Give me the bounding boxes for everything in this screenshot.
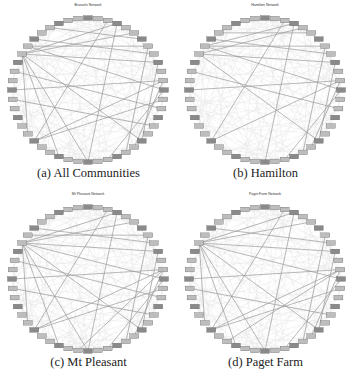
- node: [200, 321, 209, 326]
- node: [93, 159, 102, 164]
- node: [290, 154, 299, 159]
- node: [261, 16, 270, 21]
- node: [8, 78, 17, 83]
- caption-d: (d) Paget Farm: [177, 355, 354, 370]
- node: [214, 220, 223, 225]
- node: [103, 18, 112, 23]
- node: [251, 205, 260, 210]
- node: [154, 60, 163, 65]
- node: [84, 160, 93, 165]
- node: [130, 31, 139, 36]
- node: [241, 18, 250, 23]
- node: [13, 115, 22, 120]
- node: [137, 37, 146, 42]
- node: [336, 267, 345, 272]
- node: [84, 205, 93, 210]
- node: [261, 349, 270, 354]
- node: [223, 339, 232, 344]
- node: [223, 25, 232, 30]
- node: [8, 286, 17, 291]
- node: [30, 328, 39, 333]
- node: [46, 339, 55, 344]
- node: [290, 343, 299, 348]
- diagram-title: Paget Farm Network: [249, 192, 281, 196]
- panel-c: Mt Pleasant Network (c) Mt Pleasant: [0, 189, 177, 378]
- node: [331, 60, 340, 65]
- node: [157, 69, 166, 74]
- node: [231, 343, 240, 348]
- node: [144, 321, 153, 326]
- node: [334, 69, 343, 74]
- chord-diagram-b: Hamilton Network: [177, 0, 354, 165]
- node: [326, 241, 335, 246]
- node: [46, 25, 55, 30]
- node: [195, 241, 204, 246]
- node: [331, 249, 340, 254]
- node: [93, 348, 102, 353]
- node: [299, 150, 308, 155]
- diagram-title: Hamilton Network: [251, 3, 279, 7]
- node: [74, 16, 83, 21]
- node: [251, 159, 260, 164]
- node: [231, 154, 240, 159]
- node: [280, 346, 289, 351]
- node: [159, 78, 168, 83]
- node: [326, 124, 335, 129]
- node: [149, 241, 158, 246]
- node: [30, 37, 39, 42]
- node: [122, 150, 131, 155]
- node: [207, 37, 216, 42]
- node: [84, 16, 93, 21]
- node: [187, 69, 196, 74]
- node: [54, 210, 63, 215]
- caption-b: (b) Hamilton: [177, 166, 354, 181]
- node: [144, 44, 153, 49]
- node: [18, 124, 27, 129]
- node: [334, 258, 343, 263]
- node: [137, 226, 146, 231]
- node: [214, 334, 223, 339]
- node: [157, 295, 166, 300]
- node: [8, 277, 17, 282]
- node: [10, 295, 19, 300]
- node: [159, 267, 168, 272]
- node: [23, 321, 32, 326]
- node: [207, 328, 216, 333]
- node: [321, 132, 330, 137]
- node: [18, 241, 27, 246]
- node: [280, 18, 289, 23]
- node: [8, 97, 17, 102]
- node: [195, 313, 204, 318]
- node: [321, 321, 330, 326]
- node: [113, 210, 122, 215]
- node: [113, 343, 122, 348]
- node: [185, 97, 194, 102]
- node: [93, 16, 102, 21]
- node: [307, 145, 316, 150]
- node: [207, 226, 216, 231]
- node: [326, 313, 335, 318]
- node: [190, 115, 199, 120]
- node: [37, 145, 46, 150]
- node: [64, 18, 73, 23]
- node: [64, 157, 73, 162]
- node: [185, 267, 194, 272]
- node: [84, 349, 93, 354]
- panel-d: Paget Farm Network (d) Paget Farm: [177, 189, 354, 378]
- node: [144, 233, 153, 238]
- node: [190, 249, 199, 254]
- node: [103, 157, 112, 162]
- diagram-title: Mt Pleasant Network: [72, 192, 105, 196]
- node: [321, 233, 330, 238]
- node: [223, 150, 232, 155]
- node: [137, 328, 146, 333]
- node: [241, 157, 250, 162]
- node: [280, 157, 289, 162]
- node: [149, 313, 158, 318]
- node: [270, 159, 279, 164]
- node: [207, 139, 216, 144]
- panel-b: Hamilton Network (b) Hamilton: [177, 0, 354, 189]
- node: [160, 88, 169, 93]
- node: [10, 258, 19, 263]
- node: [336, 286, 345, 291]
